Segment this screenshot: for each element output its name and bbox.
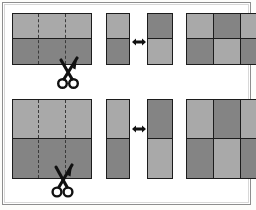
bottom-step3-checkerboard: Assembled checkerboard of six tall recta… [186, 99, 256, 179]
bottom-step3-cell-r2c2 [213, 138, 241, 179]
bottom-step2-strip-a-upper [106, 99, 130, 139]
scissors-icon [44, 163, 78, 199]
bottom-step2-strip-b [147, 99, 173, 179]
bottom-step2-strip-b-lower [147, 138, 173, 179]
bottom-step1-band-upper [12, 99, 92, 139]
bottom-step1-cut-line-1 [38, 100, 39, 178]
bottom-step3-cell-r1c1 [186, 99, 214, 139]
bottom-step3-cell-r1c3 [240, 99, 256, 139]
bottom-step2-strip-a: Two tall cut strips shown side by side, … [106, 99, 130, 179]
double-arrow-icon [131, 33, 147, 43]
bottom-step2-strip-a-lower [106, 138, 130, 179]
top-step1-cut-line-1 [38, 14, 39, 64]
bottom-step2-strip-b-upper [147, 99, 173, 139]
bottom-step3-cell-r2c3 [240, 138, 256, 179]
row-bottom-label: Bottom row: wider bands, taller strips [0, 0, 1, 1]
diagram-figure: Cut and rearrange strips to form a check… [0, 0, 256, 210]
double-arrow-icon [131, 120, 147, 130]
scissors-icon [50, 56, 84, 90]
bottom-step3-cell-r2c1 [186, 138, 214, 179]
bottom-step3-cell-r1c2 [213, 99, 241, 139]
